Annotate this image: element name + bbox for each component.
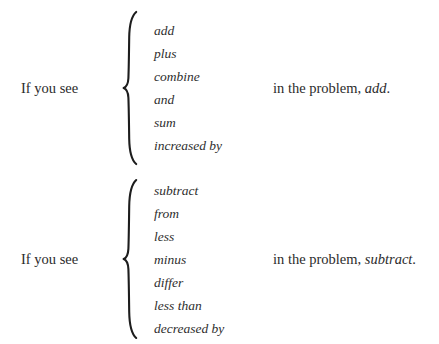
trigger-word: subtract: [154, 179, 224, 202]
trigger-word: decreased by: [154, 317, 224, 340]
trigger-word: from: [154, 202, 224, 225]
trigger-word: minus: [154, 248, 224, 271]
tail-operation: subtract: [365, 251, 413, 267]
trigger-word: differ: [154, 271, 224, 294]
rule-block-addition: If you see add plus combine and sum incr…: [0, 8, 439, 168]
trigger-word: sum: [154, 111, 222, 134]
tail-operation: add: [365, 80, 387, 96]
trigger-word-list: add plus combine and sum increased by: [154, 19, 222, 157]
trigger-word: less: [154, 225, 224, 248]
tail-period: .: [412, 251, 416, 267]
lead-label: If you see: [21, 81, 78, 96]
tail-period: .: [387, 80, 391, 96]
left-curly-brace-icon: [122, 178, 142, 340]
lead-label: If you see: [21, 252, 78, 267]
trigger-word: add: [154, 19, 222, 42]
trigger-word: plus: [154, 42, 222, 65]
trigger-word: combine: [154, 65, 222, 88]
tail-phrase: in the problem, add.: [273, 81, 390, 96]
keyword-reference-sheet: If you see add plus combine and sum incr…: [0, 0, 439, 344]
trigger-word: increased by: [154, 134, 222, 157]
left-curly-brace-icon: [122, 10, 142, 166]
rule-block-subtraction: If you see subtract from less minus diff…: [0, 176, 439, 342]
trigger-word-list: subtract from less minus differ less tha…: [154, 179, 224, 340]
trigger-word: and: [154, 88, 222, 111]
tail-phrase: in the problem, subtract.: [273, 252, 416, 267]
tail-prefix: in the problem,: [273, 251, 361, 267]
trigger-word: less than: [154, 294, 224, 317]
tail-prefix: in the problem,: [273, 80, 361, 96]
